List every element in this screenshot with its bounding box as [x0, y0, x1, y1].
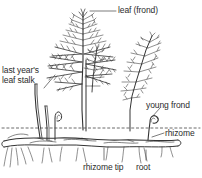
label-root: root	[136, 163, 150, 173]
fern-illustration	[0, 0, 202, 178]
label-last-years-leaf-stalk-line2: leaf stalk	[2, 75, 35, 85]
leader-rhizome	[152, 133, 164, 137]
label-rhizome: rhizome	[165, 129, 195, 139]
label-rhizome-tip: rhizome tip	[83, 163, 123, 173]
last-years-leaf-stalks	[35, 84, 49, 140]
label-leaf-frond: leaf (frond)	[118, 6, 158, 16]
young-frond-left	[55, 112, 62, 140]
fern-structure-diagram: leaf (frond) last year's leaf stalk youn…	[0, 0, 202, 178]
label-last-years-leaf-stalk: last year's leaf stalk	[2, 66, 58, 85]
label-young-frond: young frond	[146, 101, 190, 111]
label-last-years-leaf-stalk-line1: last year's	[2, 65, 39, 75]
